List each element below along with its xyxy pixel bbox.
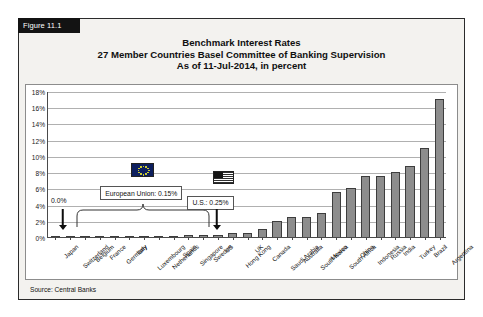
united-states-flag [213,171,234,184]
source-note: Source: Central Banks [30,286,96,293]
x-axis-tick [321,237,322,240]
bar-china [346,188,355,237]
x-axis-tick [70,237,71,240]
zero-rate-arrow [58,209,67,230]
bar-turkey [405,166,414,237]
x-axis-tick [55,237,56,240]
x-axis-tick [159,237,160,240]
bar-brazil [420,148,429,237]
x-axis-tick [307,237,308,240]
plot-card: 0%2%4%6%8%10%12%14%16%18%JapanSwitzerlan… [25,84,458,280]
x-axis-tick [85,237,86,240]
bar-south-korea [302,217,311,237]
y-axis-tick-label: 8% [35,170,45,177]
y-axis-tick-label: 16% [32,105,45,112]
european-union-callout: European Union: 0.15% [100,186,182,200]
y-axis-tick-label: 12% [32,137,45,144]
title-line-2: 27 Member Countries Basel Committee of B… [18,49,465,61]
gridline [48,108,446,109]
x-axis-tick [292,237,293,240]
y-axis-tick-label: 18% [32,89,45,96]
gridline [48,173,446,174]
x-axis-tick [440,237,441,240]
gridline [48,141,446,142]
y-axis-tick-label: 14% [32,121,45,128]
y-axis-tick-label: 6% [35,186,45,193]
bar-russia [376,176,385,237]
x-axis-tick [218,237,219,240]
x-axis-tick [366,237,367,240]
x-axis-tick [188,237,189,240]
x-axis-tick [395,237,396,240]
y-axis-tick-label: 0% [35,235,45,242]
x-axis-tick [262,237,263,240]
x-axis-label-japan: Japan [63,243,80,259]
united-states-arrow [212,209,221,230]
bar-indonesia [361,176,370,237]
bar-argentina [435,99,444,237]
gridline [48,92,446,93]
title-line-1: Benchmark Interest Rates [18,37,465,49]
gridline [48,157,446,158]
x-axis-tick [277,237,278,240]
x-axis-tick [100,237,101,240]
screenshot-page: Figure 11.1 Benchmark Interest Rates 27 … [0,0,483,317]
bar-mexico [317,213,326,237]
x-axis-label-italy: Italy [135,243,148,256]
title-line-3: As of 11-Jul-2014, in percent [18,60,465,72]
x-axis-label-mexico: Mexico [329,243,348,261]
x-axis-tick [174,237,175,240]
x-axis-tick [203,237,204,240]
bar-india [391,172,400,237]
x-axis-tick [351,237,352,240]
chart-title: Benchmark Interest Rates 27 Member Count… [18,37,465,72]
european-union-flag [131,163,154,177]
x-axis-tick [115,237,116,240]
x-axis-tick [336,237,337,240]
x-axis-label-canada: Canada [271,243,292,263]
x-axis-tick [144,237,145,240]
bar-south-africa [332,192,341,237]
y-axis-tick-label: 10% [32,153,45,160]
bar-australia [287,217,296,237]
united-states-callout: U.S.: 0.25% [187,196,233,210]
figure-number-tab: Figure 11.1 [18,18,80,33]
y-axis-tick-label: 2% [35,218,45,225]
x-axis-tick [410,237,411,240]
x-axis-tick [129,237,130,240]
x-axis-tick [381,237,382,240]
x-axis-tick [233,237,234,240]
bar-saudi-arabia [272,221,281,237]
x-axis-tick [248,237,249,240]
x-axis-tick [425,237,426,240]
y-axis-tick-label: 4% [35,202,45,209]
zero-rate-label: 0.0% [51,197,67,204]
gridline [48,124,446,125]
bar-canada [258,229,267,237]
